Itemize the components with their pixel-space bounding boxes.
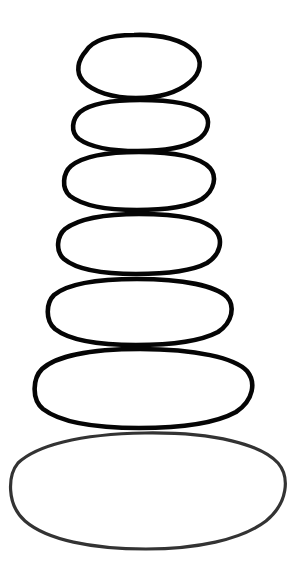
stone-fourth: [58, 214, 220, 274]
stone-base: [11, 433, 286, 549]
stone-sixth: [35, 349, 253, 428]
stone-stack-illustration: [0, 0, 297, 576]
stone-third: [64, 152, 214, 210]
stone-top: [78, 35, 199, 98]
stone-fifth: [48, 279, 232, 345]
drawing-canvas: [0, 0, 297, 576]
stone-second: [73, 100, 208, 151]
